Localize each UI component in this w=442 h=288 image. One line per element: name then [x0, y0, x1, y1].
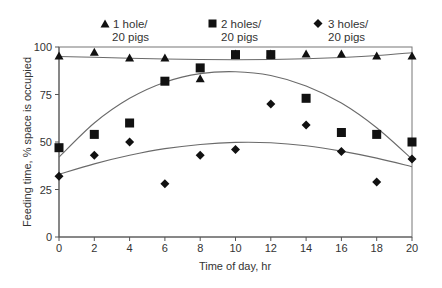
legend-label-line2: 20 pigs	[328, 31, 365, 43]
triangle-marker-icon	[101, 20, 110, 28]
triangle-data-point	[125, 53, 134, 61]
diamond-data-point	[125, 138, 134, 147]
data-points	[55, 48, 417, 189]
triangle-data-point	[55, 52, 64, 60]
square-data-point	[90, 130, 99, 139]
legend-item-3-holes: 3 holes/ 20 pigs	[314, 18, 370, 43]
x-axis-label: Time of day, hr	[199, 260, 271, 272]
legend-label-line1: 1 hole/	[113, 18, 148, 30]
legend-label-line1: 3 holes/	[328, 18, 369, 30]
diamond-marker-icon	[314, 19, 323, 28]
legend-item-2-holes: 2 holes/ 20 pigs	[209, 18, 263, 43]
diamond-data-point	[196, 151, 205, 160]
square-data-point	[408, 138, 417, 147]
y-tick-label: 0	[46, 231, 52, 243]
legend-label-line1: 2 holes/	[221, 18, 262, 30]
y-axis-label: Feeding time, % space is occupied	[21, 57, 33, 227]
diamond-data-point	[337, 147, 346, 156]
x-tick-label: 6	[162, 242, 168, 254]
x-tick-label: 10	[229, 242, 241, 254]
y-tick-label: 25	[40, 184, 52, 196]
legend: 1 hole/ 20 pigs 2 holes/ 20 pigs 3 holes…	[101, 18, 370, 43]
diamond-data-point	[90, 151, 99, 160]
x-tick-label: 20	[406, 242, 418, 254]
legend-item-1-hole: 1 hole/ 20 pigs	[101, 18, 150, 43]
diamond-data-point	[302, 120, 311, 129]
y-tick-label: 75	[40, 89, 52, 101]
square-data-point	[372, 130, 381, 139]
diamond-data-point	[266, 100, 275, 109]
square-data-point	[231, 50, 240, 59]
triangle-data-point	[337, 50, 346, 58]
square-marker-icon	[209, 20, 217, 28]
triangle-data-point	[196, 74, 205, 82]
square-data-point	[125, 119, 134, 128]
legend-label-line2: 20 pigs	[112, 31, 149, 43]
x-tick-label: 4	[127, 242, 133, 254]
triangle-data-point	[90, 48, 99, 56]
x-tick-label: 18	[371, 242, 383, 254]
y-axis-ticks: 0255075100	[34, 41, 59, 243]
y-tick-label: 50	[40, 136, 52, 148]
square-data-point	[55, 143, 64, 152]
x-tick-label: 14	[300, 242, 312, 254]
square-data-point	[302, 94, 311, 103]
x-tick-label: 8	[197, 242, 203, 254]
triangle-data-point	[160, 53, 169, 61]
y-tick-label: 100	[34, 41, 52, 53]
square-data-point	[266, 50, 275, 59]
square-data-point	[160, 77, 169, 86]
legend-label-line2: 20 pigs	[221, 31, 258, 43]
x-tick-label: 0	[56, 242, 62, 254]
x-axis-ticks: 02468101214161820	[56, 237, 418, 254]
feeding-time-chart: 1 hole/ 20 pigs 2 holes/ 20 pigs 3 holes…	[0, 0, 442, 288]
diamond-data-point	[231, 145, 240, 154]
square-data-point	[196, 63, 205, 72]
diamond-data-point	[160, 179, 169, 188]
diamond-data-point	[372, 177, 381, 186]
x-tick-label: 16	[335, 242, 347, 254]
trend-curves	[59, 53, 412, 175]
x-tick-label: 12	[265, 242, 277, 254]
x-tick-label: 2	[91, 242, 97, 254]
triangle-data-point	[302, 50, 311, 58]
square-data-point	[337, 128, 346, 137]
